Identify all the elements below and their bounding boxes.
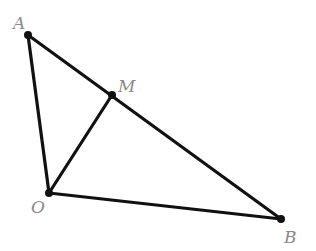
triangle-diagram: A M O B: [0, 0, 316, 251]
segment-OB: [49, 193, 281, 219]
label-B: B: [283, 227, 297, 247]
segments: [28, 35, 281, 219]
point-B: [277, 215, 285, 223]
point-O: [45, 189, 53, 197]
label-O: O: [31, 197, 45, 217]
point-M: [108, 91, 116, 99]
labels: A M O B: [11, 13, 297, 247]
label-A: A: [11, 13, 25, 33]
segment-OM: [49, 95, 112, 193]
segment-AB: [28, 35, 281, 219]
label-M: M: [117, 76, 136, 96]
segment-AO: [28, 35, 49, 193]
